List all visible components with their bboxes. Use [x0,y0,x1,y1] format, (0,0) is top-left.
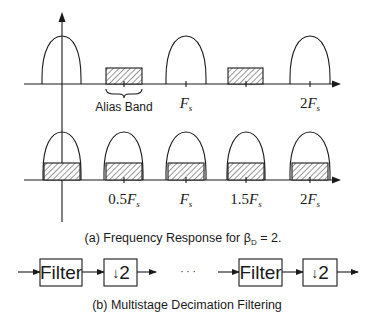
bottom-frequency-plot: 0.5Fs Fs 1.5Fs 2Fs [24,132,341,209]
tick-label-0.5fs: 0.5Fs [108,191,140,209]
tick-label-1.5fs: 1.5Fs [230,191,262,209]
axis-arrow-right-icon [332,81,341,88]
alias-band-label: Alias Band [95,100,152,114]
tick-label-2fs: 2Fs [300,191,321,209]
axis-arrow-right-icon [332,177,341,184]
tick-label-2fs: 2Fs [300,95,321,113]
alias-brace [106,89,142,98]
axis-arrow-up-icon [59,12,66,22]
caption-a: (a) Frequency Response for βD = 2. [85,231,282,247]
passband-lobe [166,36,206,84]
downsample-label: ↓2 [311,262,329,283]
filter-label: Filter [40,262,83,283]
downsample-label: ↓2 [112,262,130,283]
alias-overlap-box [44,163,80,180]
tick-label-fs: Fs [179,191,193,209]
ellipsis: · · · [180,266,196,277]
down-arrow-icon: ↓ [112,265,119,281]
multistage-block-diagram: Filter ↓2 · · · Filter ↓2 [18,259,358,286]
vertical-axis [59,12,66,222]
decimation-figure: Alias Band Fs 2Fs 0.5Fs Fs 1.5Fs 2Fs (a)… [0,0,377,323]
passband-lobe [290,36,330,84]
tick-label-fs: Fs [179,95,193,113]
down-arrow-icon: ↓ [311,265,318,281]
caption-b: (b) Multistage Decimation Filtering [92,298,282,312]
top-frequency-plot: Alias Band Fs 2Fs [24,36,341,114]
filter-label: Filter [239,262,282,283]
